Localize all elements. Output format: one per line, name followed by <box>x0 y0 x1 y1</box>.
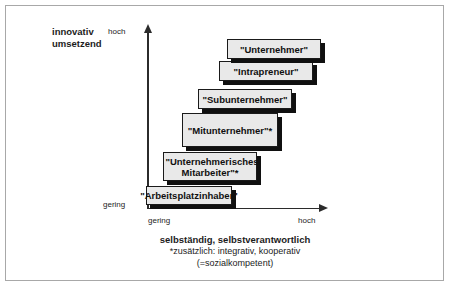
step-label-line1: "Unternehmerisches <box>165 156 258 167</box>
step-box-arbeitsplatzinhaber: "Arbeitsplatzinhaber" <box>146 186 232 205</box>
caption-line-1: selbständig, selbstverantwortlich <box>120 234 350 246</box>
step-box-subunternehmer: "Subunternehmer" <box>198 89 292 109</box>
y-axis-title-line1: innovativ <box>52 26 102 38</box>
step-box-intrapreneur: "Intrapreneur" <box>219 61 313 81</box>
x-axis-low-label: gering <box>148 216 170 225</box>
y-axis-title-line2: umsetzend <box>52 38 102 50</box>
y-axis-title: innovativ umsetzend <box>52 26 102 49</box>
y-axis-low-label: gering <box>103 200 125 209</box>
x-axis-high-label: hoch <box>298 216 315 225</box>
y-axis-arrow-icon <box>144 24 152 33</box>
caption-line-2: *zusätzlich: integrativ, kooperativ <box>120 246 350 258</box>
step-box-unternehmer: "Unternehmer" <box>227 39 321 59</box>
diagram-canvas: innovativ umsetzend hoch gering gering h… <box>0 0 451 288</box>
step-box-mitunternehmer: "Mitunternehmer"* <box>182 113 278 147</box>
step-label: "Mitunternehmer"* <box>188 125 273 136</box>
step-label-line2: Mitarbeiter"* <box>182 167 239 178</box>
chart-caption: selbständig, selbstverantwortlich *zusät… <box>120 234 350 269</box>
y-axis-high-label: hoch <box>108 27 125 36</box>
step-label: "Unternehmer" <box>240 44 308 55</box>
step-box-unternehmerischer-mitarbeiter: "Unternehmerisches Mitarbeiter"* <box>163 152 257 181</box>
step-label: "Arbeitsplatzinhaber" <box>140 190 238 201</box>
x-axis-line <box>147 208 322 210</box>
step-label: "Subunternehmer" <box>202 94 287 105</box>
x-axis-arrow-icon <box>319 204 328 212</box>
y-axis-line <box>147 32 149 209</box>
caption-line-3: (=sozialkompetent) <box>120 258 350 270</box>
step-label: "Intrapreneur" <box>234 66 299 77</box>
